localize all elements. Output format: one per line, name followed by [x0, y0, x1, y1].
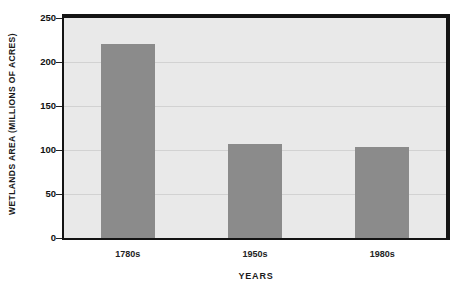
x-tick-label: 1980s	[342, 250, 422, 259]
y-axis-title-text: WETLANDS AREA (MILLIONS OF ACRES)	[7, 33, 17, 215]
x-tick-label: 1780s	[88, 250, 168, 259]
bar	[101, 44, 155, 238]
plot-area	[64, 18, 446, 238]
y-tick-label: 0	[30, 233, 56, 243]
bar	[228, 144, 282, 238]
bar	[355, 147, 409, 238]
x-tick-label: 1950s	[215, 250, 295, 259]
x-axis-title: YEARS	[62, 271, 450, 281]
plot-frame	[62, 14, 450, 240]
y-axis-ticks: 050100150200250	[26, 0, 56, 295]
bottom-caption	[8, 288, 338, 295]
y-tick-label: 200	[30, 57, 56, 67]
y-tick-label: 100	[30, 145, 56, 155]
y-tick-label: 50	[30, 189, 56, 199]
y-axis-title: WETLANDS AREA (MILLIONS OF ACRES)	[0, 0, 24, 248]
y-tick-label: 250	[30, 13, 56, 23]
y-tick-label: 150	[30, 101, 56, 111]
